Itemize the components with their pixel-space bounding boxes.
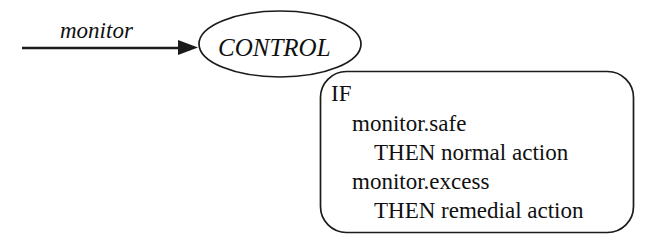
control-node-label: CONTROL	[218, 34, 331, 61]
monitor-edge-label: monitor	[60, 18, 134, 43]
rule-line-monitor-safe: monitor.safe	[352, 111, 466, 136]
rule-line-if: IF	[331, 81, 351, 106]
rule-line-then-remedial-action: THEN remedial action	[374, 198, 584, 223]
rule-line-then-normal-action: THEN normal action	[374, 140, 569, 165]
rule-line-monitor-excess: monitor.excess	[352, 169, 489, 194]
diagram-svg: monitor CONTROL IF monitor.safe THEN nor…	[0, 0, 656, 246]
monitor-edge-arrowhead	[178, 40, 198, 55]
diagram-canvas: monitor CONTROL IF monitor.safe THEN nor…	[0, 0, 656, 246]
